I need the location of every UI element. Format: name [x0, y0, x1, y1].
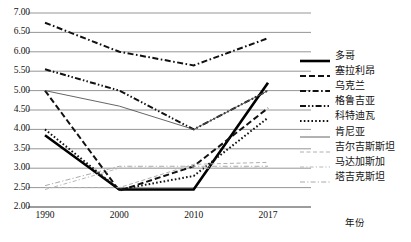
legend-label: 马达加斯加 [335, 157, 385, 167]
y-tick-label: 6.00 [0, 46, 30, 56]
y-tick-label: 4.00 [0, 123, 30, 133]
legend-label: 科特迪瓦 [335, 111, 375, 121]
x-tick-label: 2000 [96, 210, 142, 220]
legend-label: 格鲁吉亚 [335, 96, 375, 106]
gridlines [28, 13, 311, 207]
y-tick-label: 3.00 [0, 162, 30, 172]
legend-label: 肯尼亚 [335, 127, 365, 137]
legend-item[interactable]: 多哥 [300, 48, 411, 63]
series-line [45, 69, 268, 129]
x-tick-label: 2017 [245, 210, 291, 220]
line-chart: 7.006.506.005.505.004.504.003.503.002.50… [0, 0, 411, 242]
x-tick-label: 1990 [22, 210, 68, 220]
legend-label: 塔吉克斯坦 [335, 172, 385, 182]
legend-label: 乌克兰 [335, 81, 365, 91]
legend-label: 吉尔吉斯斯坦 [335, 142, 395, 152]
y-tick-label: 7.00 [0, 7, 30, 17]
x-axis-label: 年份 [345, 215, 365, 229]
legend-label: 多哥 [335, 51, 355, 61]
y-tick-label: 4.50 [0, 104, 30, 114]
series-lines [45, 23, 268, 191]
y-tick-label: 6.50 [0, 26, 30, 36]
y-tick-label: 5.00 [0, 85, 30, 95]
x-tick-label: 2010 [171, 210, 217, 220]
y-tick-label: 5.50 [0, 65, 30, 75]
series-line [45, 23, 268, 66]
legend-label: 塞拉利昂 [335, 66, 375, 76]
y-tick-label: 2.50 [0, 182, 30, 192]
chart-legend: 多哥塞拉利昂乌克兰格鲁吉亚科特迪瓦肯尼亚吉尔吉斯斯坦马达加斯加塔吉克斯坦 [300, 48, 411, 185]
y-tick-label: 3.50 [0, 143, 30, 153]
